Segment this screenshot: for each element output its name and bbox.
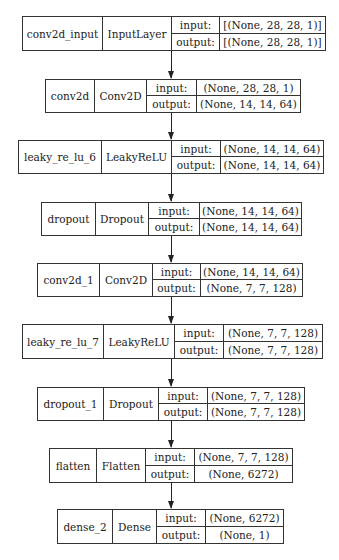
output-label: output: bbox=[172, 157, 220, 173]
layer-name: dense_2 bbox=[58, 510, 112, 543]
edge-arrow-icon bbox=[171, 113, 172, 139]
input-shape: (None, 7, 7, 128) bbox=[224, 325, 322, 342]
layer-class: LeakyReLU bbox=[101, 141, 171, 173]
layer-node-conv2d-1: conv2d_1 Conv2D input: output: (None, 14… bbox=[37, 263, 303, 297]
io-labels: input: output: bbox=[171, 141, 220, 173]
layer-class: Dense bbox=[112, 510, 156, 543]
io-shapes: (None, 6272) (None, 1) bbox=[205, 510, 283, 543]
io-shapes: (None, 14, 14, 64) (None, 14, 14, 64) bbox=[199, 203, 301, 235]
input-shape: (None, 7, 7, 128) bbox=[208, 388, 304, 404]
edge-arrow-icon bbox=[171, 421, 172, 447]
output-label: output: bbox=[172, 34, 219, 51]
layer-name: dropout bbox=[42, 203, 95, 235]
edge-arrow-icon bbox=[171, 297, 172, 323]
io-shapes: (None, 28, 28, 1) (None, 14, 14, 64) bbox=[196, 80, 300, 112]
input-shape: (None, 14, 14, 64) bbox=[201, 264, 302, 280]
input-shape: [(None, 28, 28, 1)] bbox=[220, 17, 325, 34]
layer-name: flatten bbox=[50, 449, 96, 482]
layer-name: dropout_1 bbox=[38, 388, 103, 420]
input-label: input: bbox=[172, 141, 220, 157]
input-label: input: bbox=[149, 203, 199, 219]
io-shapes: (None, 14, 14, 64) (None, 14, 14, 64) bbox=[220, 141, 323, 173]
io-labels: input: output: bbox=[171, 17, 219, 50]
layer-class: LeakyReLU bbox=[103, 325, 174, 358]
io-labels: input: output: bbox=[174, 325, 223, 358]
io-shapes: (None, 7, 7, 128) (None, 6272) bbox=[194, 449, 292, 482]
layer-node-dense-2: dense_2 Dense input: output: (None, 6272… bbox=[57, 509, 284, 544]
layer-class: Flatten bbox=[96, 449, 145, 482]
edge-arrow-icon bbox=[171, 359, 172, 386]
input-shape: (None, 14, 14, 64) bbox=[221, 141, 323, 157]
io-shapes: (None, 7, 7, 128) (None, 7, 7, 128) bbox=[207, 388, 304, 420]
input-label: input: bbox=[147, 80, 196, 96]
edge-arrow-icon bbox=[171, 174, 172, 201]
input-label: input: bbox=[175, 325, 223, 342]
output-label: output: bbox=[175, 342, 223, 359]
input-label: input: bbox=[172, 17, 219, 34]
io-labels: input: output: bbox=[156, 510, 205, 543]
output-label: output: bbox=[153, 280, 200, 296]
layer-name: leaky_re_lu_7 bbox=[23, 325, 103, 358]
output-shape: (None, 7, 7, 128) bbox=[201, 280, 302, 296]
layer-node-leaky-re-lu-6: leaky_re_lu_6 LeakyReLU input: output: (… bbox=[18, 140, 324, 174]
layer-node-leaky-re-lu-7: leaky_re_lu_7 LeakyReLU input: output: (… bbox=[22, 324, 323, 359]
input-label: input: bbox=[153, 264, 200, 280]
layer-class: Conv2D bbox=[99, 264, 152, 296]
input-label: input: bbox=[146, 449, 194, 466]
output-shape: (None, 14, 14, 64) bbox=[221, 157, 323, 173]
output-label: output: bbox=[149, 219, 199, 235]
layer-name: conv2d bbox=[46, 80, 94, 112]
layer-class: Conv2D bbox=[94, 80, 146, 112]
input-label: input: bbox=[157, 510, 205, 527]
io-labels: input: output: bbox=[158, 388, 207, 420]
output-shape: (None, 14, 14, 64) bbox=[200, 219, 301, 235]
output-shape: (None, 14, 14, 64) bbox=[197, 96, 300, 112]
output-shape: (None, 6272) bbox=[195, 466, 292, 483]
layer-node-dropout: dropout Dropout input: output: (None, 14… bbox=[41, 202, 302, 236]
layer-name: conv2d_1 bbox=[38, 264, 99, 296]
input-shape: (None, 7, 7, 128) bbox=[195, 449, 292, 466]
output-label: output: bbox=[147, 96, 196, 112]
io-labels: input: output: bbox=[145, 449, 194, 482]
input-label: input: bbox=[159, 388, 207, 404]
io-labels: input: output: bbox=[148, 203, 199, 235]
input-shape: (None, 28, 28, 1) bbox=[197, 80, 300, 96]
output-label: output: bbox=[146, 466, 194, 483]
input-shape: (None, 14, 14, 64) bbox=[200, 203, 301, 219]
edge-arrow-icon bbox=[171, 483, 172, 508]
layer-node-flatten: flatten Flatten input: output: (None, 7,… bbox=[49, 448, 293, 483]
input-shape: (None, 6272) bbox=[206, 510, 283, 527]
edge-arrow-icon bbox=[171, 236, 172, 262]
layer-class: Dropout bbox=[95, 203, 148, 235]
output-shape: (None, 7, 7, 128) bbox=[224, 342, 322, 359]
layer-node-conv2d: conv2d Conv2D input: output: (None, 28, … bbox=[45, 79, 301, 113]
io-shapes: [(None, 28, 28, 1)] [(None, 28, 28, 1)] bbox=[219, 17, 325, 50]
io-labels: input: output: bbox=[146, 80, 196, 112]
io-shapes: (None, 14, 14, 64) (None, 7, 7, 128) bbox=[200, 264, 302, 296]
layer-class: Dropout bbox=[103, 388, 158, 420]
layer-node-conv2d-input: conv2d_input InputLayer input: output: [… bbox=[22, 16, 326, 51]
layer-name: conv2d_input bbox=[23, 17, 102, 50]
output-label: output: bbox=[159, 404, 207, 420]
output-shape: (None, 7, 7, 128) bbox=[208, 404, 304, 420]
output-shape: [(None, 28, 28, 1)] bbox=[220, 34, 325, 51]
io-shapes: (None, 7, 7, 128) (None, 7, 7, 128) bbox=[223, 325, 322, 358]
output-shape: (None, 1) bbox=[206, 527, 283, 544]
layer-class: InputLayer bbox=[102, 17, 171, 50]
output-label: output: bbox=[157, 527, 205, 544]
edge-arrow-icon bbox=[171, 51, 172, 78]
layer-node-dropout-1: dropout_1 Dropout input: output: (None, … bbox=[37, 387, 305, 421]
layer-name: leaky_re_lu_6 bbox=[19, 141, 101, 173]
io-labels: input: output: bbox=[152, 264, 200, 296]
